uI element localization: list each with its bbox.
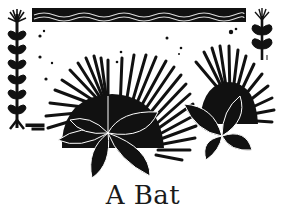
right-urchin-icon — [184, 46, 274, 160]
left-sprig-icon — [8, 9, 44, 130]
page-title: A Bat — [0, 179, 286, 211]
dots-decoration — [38, 28, 237, 81]
wave-band-icon — [32, 8, 246, 22]
right-sprig-icon — [252, 8, 272, 60]
left-urchin-icon — [46, 55, 196, 178]
